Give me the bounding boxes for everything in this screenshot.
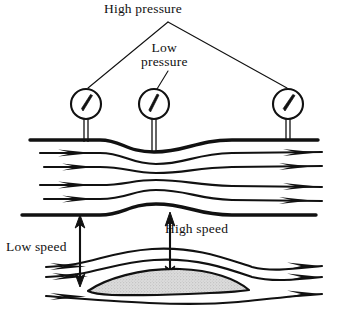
- venturi-streamlines: [40, 152, 322, 201]
- low-pressure-label-line2: pressure: [141, 54, 188, 69]
- low-pressure-leader: [157, 71, 168, 89]
- bernoulli-venturi-airfoil-figure: High pressure Lowpressure Low speed High…: [0, 0, 337, 331]
- pressure-gauge-group: [71, 89, 303, 152]
- high-pressure-label: High pressure: [104, 2, 182, 16]
- venturi-bottom-wall: [22, 204, 316, 215]
- airfoil-arrow-right-3: [287, 291, 322, 298]
- high-speed-label: High speed: [165, 222, 228, 236]
- venturi-top-wall: [30, 140, 318, 152]
- right-pressure-gauge: [273, 89, 303, 141]
- center-pressure-gauge: [139, 89, 169, 152]
- low-speed-label: Low speed: [6, 240, 67, 254]
- airfoil-streamline-upper: [46, 249, 322, 270]
- airfoil-streamline-lower: [46, 294, 322, 304]
- airfoil-body: [88, 269, 249, 295]
- left-pressure-gauge: [71, 89, 101, 142]
- low-pressure-label-line1: Low: [152, 40, 177, 55]
- low-pressure-label: Lowpressure: [141, 41, 188, 69]
- airfoil-group: [88, 269, 249, 295]
- venturi-flow-arrowheads: [58, 149, 318, 204]
